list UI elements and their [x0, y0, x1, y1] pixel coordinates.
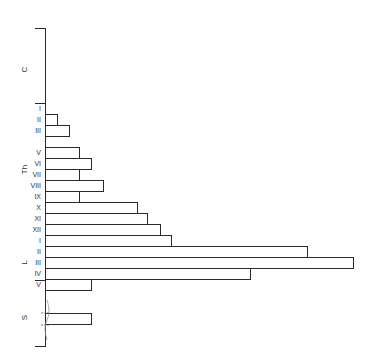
row-label: IX [21, 191, 41, 202]
row-label: V [21, 147, 41, 158]
row-label: VII [21, 169, 41, 180]
row-label: VI [21, 158, 41, 169]
row-label: XII [21, 224, 41, 235]
group-label-s: S [20, 308, 29, 328]
group-separator-tick [35, 346, 46, 347]
row-label: IV [21, 268, 41, 279]
row-label: II [21, 114, 41, 125]
group-label-c: C [20, 60, 29, 80]
row-label: I [21, 103, 41, 114]
bar-th-iii [46, 125, 70, 137]
row-label: XI [21, 213, 41, 224]
vertebral-bar-chart: CThLSIIIIIIVVIVIIVIIIIXXXIXIIIIIIIIIVV [0, 0, 377, 364]
row-label: VIII [21, 180, 41, 191]
group-separator-tick [35, 28, 46, 29]
row-label: II [21, 246, 41, 257]
row-label: III [21, 257, 41, 268]
row-label: I [21, 235, 41, 246]
bar-l-v [46, 279, 92, 291]
row-label: X [21, 202, 41, 213]
axis-break-icon [39, 300, 59, 340]
row-label: III [21, 125, 41, 136]
row-label: V [21, 279, 41, 290]
